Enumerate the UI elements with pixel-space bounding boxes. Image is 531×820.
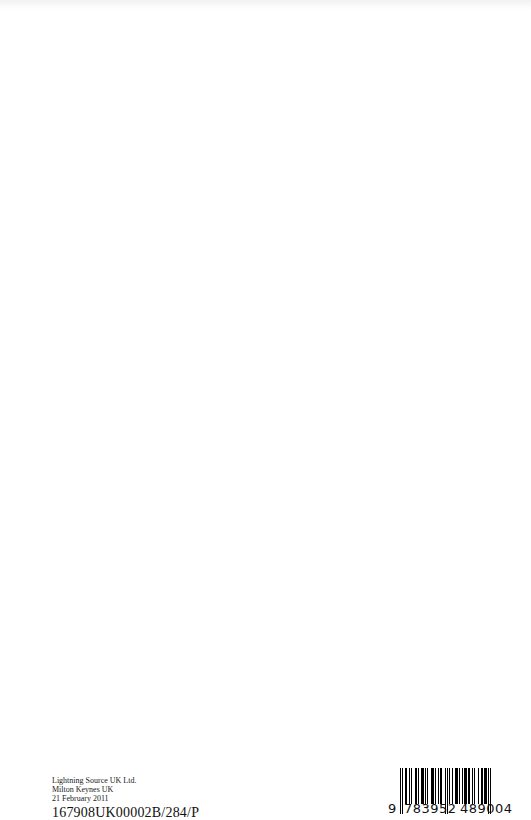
print-date: 21 February 2011 <box>52 794 199 803</box>
barcode-icon <box>400 768 516 804</box>
print-job-code: 167908UK00002B/284/P <box>52 806 199 820</box>
isbn-barcode: 9 783952 489004 <box>388 768 520 815</box>
page-top-edge <box>0 0 531 10</box>
printer-imprint: Lightning Source UK Ltd. Milton Keynes U… <box>52 776 199 820</box>
isbn-right-group: 489004 <box>460 802 513 816</box>
isbn-left-group: 783952 <box>404 802 457 816</box>
printer-location: Milton Keynes UK <box>52 785 199 794</box>
printer-name: Lightning Source UK Ltd. <box>52 776 199 785</box>
isbn-lead-digit: 9 <box>388 802 396 816</box>
